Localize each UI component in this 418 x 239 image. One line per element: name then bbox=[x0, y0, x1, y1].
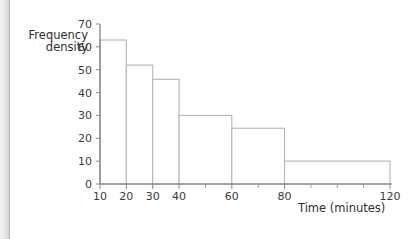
histogram-bar bbox=[153, 79, 179, 184]
histogram-bar bbox=[179, 115, 232, 184]
chart-svg: 010203040506070 102030406080120 Frequenc… bbox=[0, 0, 418, 239]
histogram-bar bbox=[100, 40, 126, 184]
x-tick-label: 60 bbox=[225, 190, 239, 203]
x-axis-label: Time (minutes) bbox=[297, 201, 385, 215]
x-tick-label: 40 bbox=[172, 190, 186, 203]
y-tick-label: 40 bbox=[78, 87, 92, 100]
y-tick-label: 0 bbox=[85, 178, 92, 191]
y-tick-label: 10 bbox=[78, 155, 92, 168]
histogram-bar bbox=[285, 161, 390, 184]
x-tick-label: 10 bbox=[93, 190, 107, 203]
histogram-bar bbox=[126, 65, 152, 184]
x-tick-label: 20 bbox=[119, 190, 133, 203]
bars-group bbox=[100, 40, 390, 184]
y-axis-label-line2: density bbox=[46, 40, 88, 54]
x-tick-label: 30 bbox=[146, 190, 160, 203]
y-tick-label: 50 bbox=[78, 64, 92, 77]
x-tick-label: 80 bbox=[278, 190, 292, 203]
histogram-chart: 010203040506070 102030406080120 Frequenc… bbox=[0, 0, 418, 239]
y-tick-label: 30 bbox=[78, 109, 92, 122]
histogram-bar bbox=[232, 128, 285, 184]
y-tick-label: 20 bbox=[78, 132, 92, 145]
